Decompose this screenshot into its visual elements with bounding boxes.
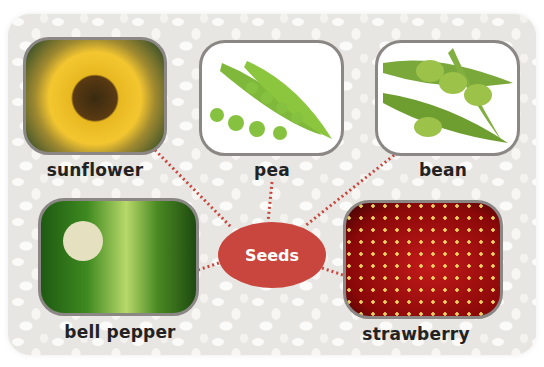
sunflower-image: [23, 37, 167, 155]
sunflower-label: sunflower: [15, 160, 175, 180]
strawberry-image: [343, 200, 503, 319]
strawberry-label: strawberry: [336, 324, 496, 344]
pepper-seeds: [63, 221, 103, 261]
bell-pepper-image: [38, 198, 199, 316]
bean-image: [375, 40, 520, 156]
pea-image: [199, 40, 344, 156]
bean-pod-icon: [378, 43, 517, 153]
bell-pepper-label: bell pepper: [40, 322, 200, 342]
seeds-center-label: Seeds: [245, 246, 299, 265]
bean-label: bean: [363, 160, 523, 180]
seeds-center-node: Seeds: [218, 222, 326, 288]
pea-pod-icon: [202, 43, 341, 153]
pea-label: pea: [192, 160, 352, 180]
